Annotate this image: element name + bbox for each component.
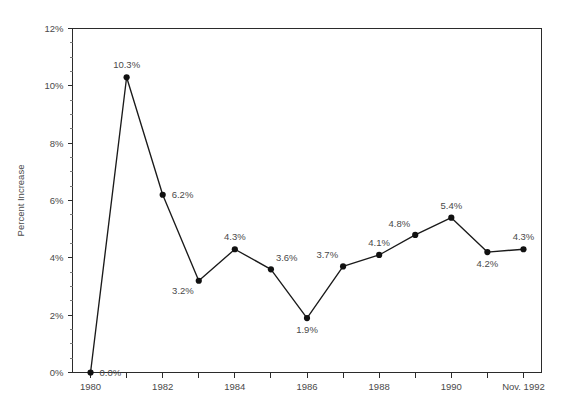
data-point-label: 3.2% bbox=[172, 285, 194, 296]
data-point-label: 4.1% bbox=[368, 237, 390, 248]
x-tick-label: 1990 bbox=[441, 381, 462, 392]
data-point-label: 1.9% bbox=[296, 324, 318, 335]
x-tick-label: 1984 bbox=[224, 381, 245, 392]
y-tick-label: 0% bbox=[50, 367, 64, 378]
x-tick-label: 1982 bbox=[152, 381, 173, 392]
x-tick-label: 1988 bbox=[369, 381, 390, 392]
data-point-marker bbox=[124, 74, 130, 80]
data-point-label: 10.3% bbox=[113, 59, 140, 70]
x-tick-label: 1980 bbox=[80, 381, 101, 392]
x-tick-label: Nov. 1992 bbox=[502, 381, 545, 392]
data-point-marker bbox=[304, 315, 310, 321]
data-point-label: 4.8% bbox=[389, 218, 411, 229]
data-point-marker bbox=[268, 266, 274, 272]
data-point-marker bbox=[160, 192, 166, 198]
data-point-marker bbox=[340, 263, 346, 269]
data-point-marker bbox=[448, 215, 454, 221]
chart-background bbox=[0, 0, 570, 409]
data-point-label: 3.7% bbox=[316, 249, 338, 260]
data-point-marker bbox=[87, 369, 93, 375]
y-tick-label: 4% bbox=[50, 252, 64, 263]
data-point-marker bbox=[232, 246, 238, 252]
y-tick-label: 10% bbox=[44, 80, 64, 91]
data-point-label: 4.2% bbox=[477, 258, 499, 269]
data-point-label: 0.0% bbox=[100, 367, 122, 378]
data-point-label: 4.3% bbox=[513, 231, 535, 242]
data-point-label: 5.4% bbox=[440, 200, 462, 211]
line-chart: 0%2%4%6%8%10%12% 19801982198419861988199… bbox=[0, 0, 570, 409]
x-tick-label: 1986 bbox=[296, 381, 317, 392]
y-axis-title: Percent Increase bbox=[15, 165, 26, 237]
y-tick-label: 8% bbox=[50, 138, 64, 149]
data-point-label: 3.6% bbox=[276, 252, 298, 263]
data-point-marker bbox=[376, 252, 382, 258]
y-tick-label: 6% bbox=[50, 195, 64, 206]
data-point-label: 4.3% bbox=[224, 231, 246, 242]
y-tick-label: 2% bbox=[50, 310, 64, 321]
data-point-marker bbox=[520, 246, 526, 252]
data-point-marker bbox=[412, 232, 418, 238]
data-point-marker bbox=[196, 278, 202, 284]
chart-canvas: 0%2%4%6%8%10%12% 19801982198419861988199… bbox=[0, 0, 570, 409]
data-point-marker bbox=[484, 249, 490, 255]
y-tick-label: 12% bbox=[44, 23, 64, 34]
data-point-label: 6.2% bbox=[172, 189, 194, 200]
